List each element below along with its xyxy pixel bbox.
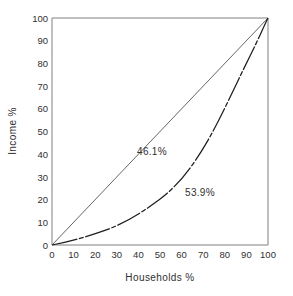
x-tick-label: 80 <box>220 249 231 260</box>
x-tick-label: 40 <box>133 249 144 260</box>
y-tick-label: 100 <box>32 13 48 24</box>
y-tick-label: 80 <box>37 58 48 69</box>
x-tick-label: 100 <box>260 249 276 260</box>
y-tick-label: 0 <box>43 240 48 251</box>
x-tick-label: 30 <box>112 249 123 260</box>
x-tick-label: 50 <box>155 249 166 260</box>
x-tick-label: 90 <box>241 249 252 260</box>
y-tick-label: 30 <box>37 172 48 183</box>
x-axis-title: Households % <box>125 272 194 283</box>
y-tick-label: 60 <box>37 103 48 114</box>
x-tick-label: 0 <box>49 249 54 260</box>
y-axis-tick-labels: 100 90 80 70 60 50 40 30 20 10 0 <box>32 13 48 251</box>
chart-canvas: 100 90 80 70 60 50 40 30 20 10 0 0 10 20… <box>0 0 293 296</box>
x-tick-label: 60 <box>176 249 187 260</box>
x-tick-label: 20 <box>90 249 101 260</box>
x-tick-label: 10 <box>68 249 79 260</box>
y-tick-label: 20 <box>37 194 48 205</box>
x-axis-tick-labels: 0 10 20 30 40 50 60 70 80 90 100 <box>49 249 276 260</box>
y-tick-label: 10 <box>37 217 48 228</box>
y-axis-title: Income % <box>7 107 18 155</box>
y-tick-label: 40 <box>37 149 48 160</box>
x-tick-label: 70 <box>198 249 209 260</box>
y-tick-label: 50 <box>37 126 48 137</box>
y-tick-label: 90 <box>37 35 48 46</box>
annotation-equality-area: 46.1% <box>137 146 167 157</box>
annotation-lorenz-area: 53.9% <box>185 187 215 198</box>
lorenz-curve-figure: 100 90 80 70 60 50 40 30 20 10 0 0 10 20… <box>0 0 293 296</box>
y-tick-label: 70 <box>37 81 48 92</box>
